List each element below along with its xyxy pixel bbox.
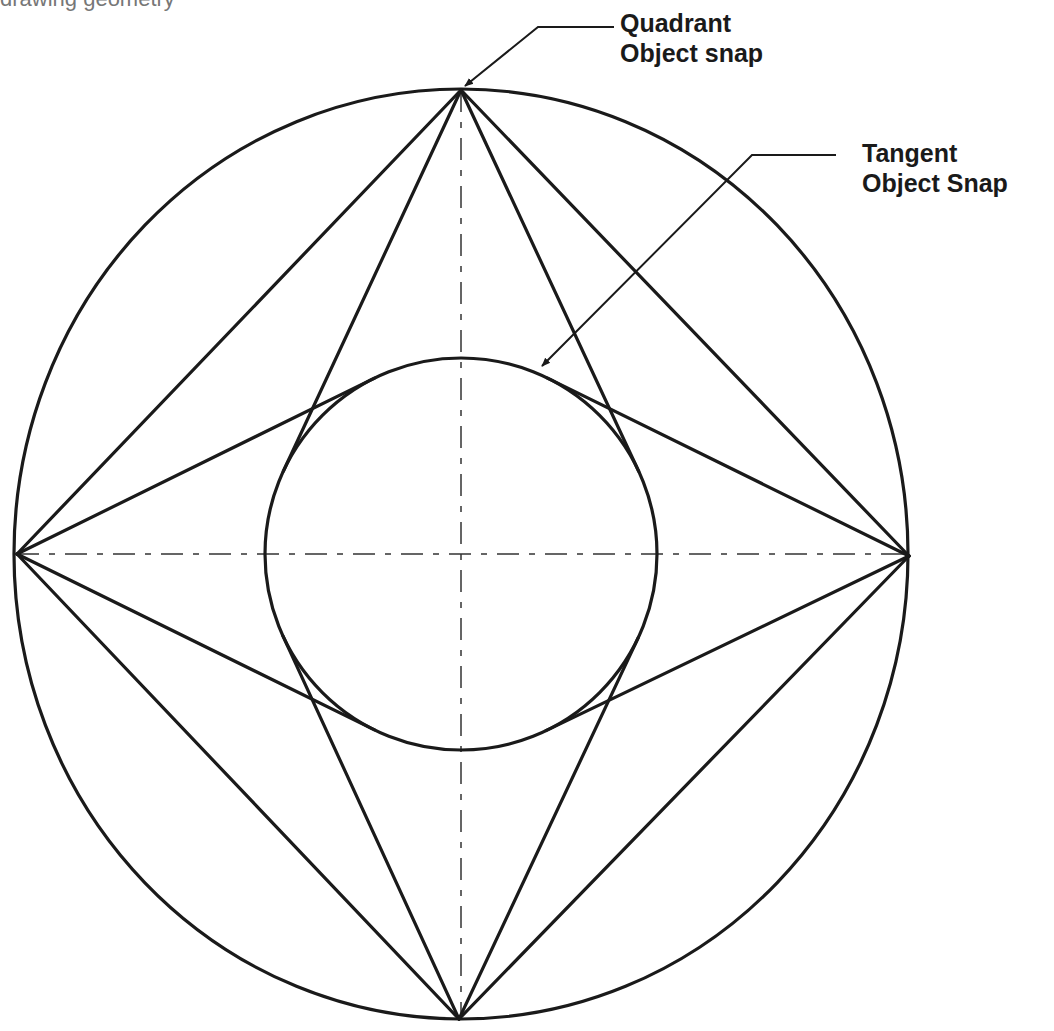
tangent-label-line1: Tangent xyxy=(862,138,1008,168)
quadrant-chord-top-right xyxy=(461,90,909,556)
tangent-line-from-top xyxy=(461,90,639,471)
tangent-line-from-bottom xyxy=(283,636,459,1019)
quadrant-object-snap-label: Quadrant Object snap xyxy=(620,8,763,68)
tangent-line-from-top xyxy=(283,90,461,471)
quadrant-leader-arrow xyxy=(465,27,614,86)
quadrant-chord-bottom-left xyxy=(17,554,459,1019)
tangent-line-from-bottom xyxy=(459,637,638,1019)
tangent-line-from-right xyxy=(546,556,909,731)
tangent-line-from-left xyxy=(17,554,375,730)
tangent-label-line2: Object Snap xyxy=(862,168,1008,198)
quadrant-label-line1: Quadrant xyxy=(620,8,763,38)
quadrant-label-line2: Object snap xyxy=(620,38,763,68)
quadrant-chord-left-top xyxy=(17,90,461,554)
tangent-leader-arrow xyxy=(542,155,836,366)
leader-arrows xyxy=(465,27,836,366)
quadrant-chord-right-bottom xyxy=(459,556,909,1019)
center-lines xyxy=(17,90,909,1019)
tangent-line-from-left xyxy=(17,378,375,554)
diagram-canvas: drawing geometry Quadrant Object snap Ta… xyxy=(0,0,1054,1031)
tangent-object-snap-label: Tangent Object Snap xyxy=(862,138,1008,198)
tangent-line-from-right xyxy=(548,378,910,556)
